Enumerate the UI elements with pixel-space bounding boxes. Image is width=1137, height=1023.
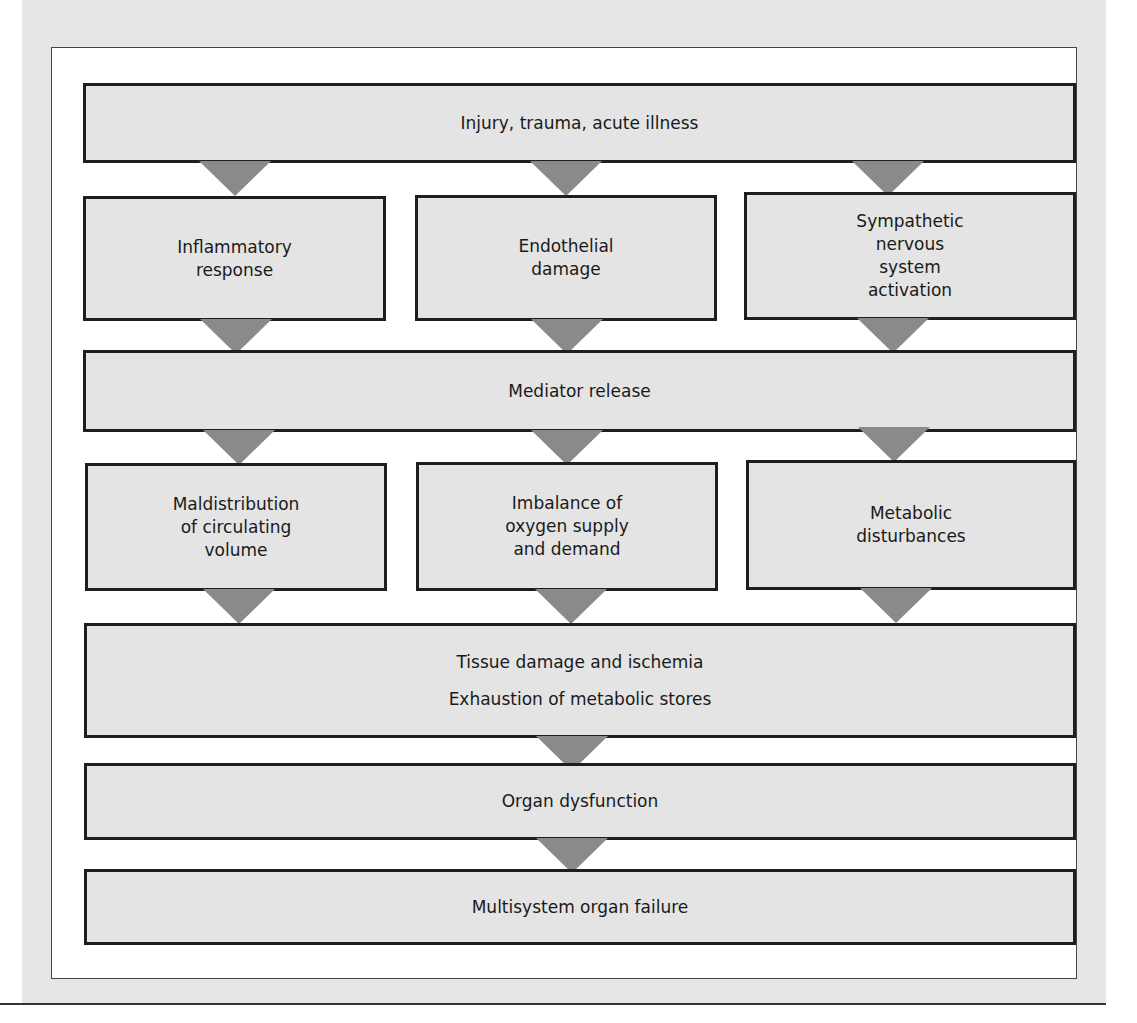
node-label: oxygen supply	[505, 515, 628, 538]
node-label: Sympathetic	[856, 210, 963, 233]
arrow-down-icon	[531, 430, 603, 465]
node-maldistribution: Maldistribution of circulating volume	[85, 463, 387, 591]
node-mediator-release: Mediator release	[83, 350, 1076, 432]
node-metabolic-disturbances: Metabolic disturbances	[746, 460, 1076, 590]
node-label: Inflammatory	[177, 236, 292, 259]
node-label: system	[879, 256, 940, 279]
node-label: disturbances	[856, 525, 965, 548]
node-label: damage	[531, 258, 600, 281]
arrow-down-icon	[535, 589, 607, 624]
node-label: Multisystem organ failure	[472, 896, 689, 919]
node-label: Injury, trauma, acute illness	[461, 112, 699, 135]
node-multisystem-organ-failure: Multisystem organ failure	[84, 869, 1076, 945]
node-injury: Injury, trauma, acute illness	[83, 83, 1076, 163]
arrow-down-icon	[531, 319, 603, 354]
arrow-down-icon	[200, 319, 272, 354]
node-sympathetic-activation: Sympathetic nervous system activation	[744, 192, 1076, 320]
node-organ-dysfunction: Organ dysfunction	[84, 763, 1076, 840]
page-bottom-rule	[0, 1003, 1106, 1005]
arrow-down-icon	[536, 838, 608, 873]
node-label: Maldistribution	[173, 493, 300, 516]
arrow-down-icon	[860, 588, 932, 623]
arrow-down-icon	[857, 318, 929, 353]
arrow-down-icon	[203, 589, 275, 624]
node-label: of circulating	[181, 516, 292, 539]
node-label: Endothelial	[518, 235, 613, 258]
arrow-down-icon	[858, 427, 930, 462]
arrow-down-icon	[530, 161, 602, 196]
node-label: Metabolic	[870, 502, 952, 525]
node-label: volume	[205, 539, 268, 562]
node-oxygen-imbalance: Imbalance of oxygen supply and demand	[416, 462, 718, 591]
node-label: nervous	[876, 233, 944, 256]
node-label: activation	[868, 279, 952, 302]
node-endothelial-damage: Endothelial damage	[415, 195, 717, 321]
node-label: Exhaustion of metabolic stores	[449, 688, 712, 711]
node-label: Organ dysfunction	[502, 790, 659, 813]
node-inflammatory-response: Inflammatory response	[83, 196, 386, 321]
arrow-down-icon	[203, 430, 275, 465]
node-label: Mediator release	[508, 380, 651, 403]
node-label: response	[196, 259, 273, 282]
node-label: Tissue damage and ischemia	[456, 651, 703, 674]
node-tissue-damage: Tissue damage and ischemia Exhaustion of…	[84, 623, 1076, 738]
arrow-down-icon	[199, 161, 271, 196]
arrow-down-icon	[852, 161, 924, 196]
node-label: Imbalance of	[512, 492, 622, 515]
node-label: and demand	[513, 538, 620, 561]
